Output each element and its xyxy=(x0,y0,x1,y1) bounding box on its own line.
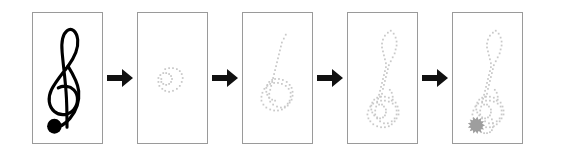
stipple-dot xyxy=(501,114,503,116)
stipple-dot xyxy=(381,82,383,84)
stipple-dot xyxy=(281,42,283,44)
stipple-dot xyxy=(273,82,275,84)
note-head xyxy=(47,119,62,134)
stipple-dot xyxy=(279,50,281,52)
stipple-dot xyxy=(158,81,160,83)
stipple-dot xyxy=(382,51,384,53)
right-arrow-icon xyxy=(212,69,238,87)
stipple-dot xyxy=(388,97,390,99)
stipple-dot xyxy=(168,83,170,85)
stipple-dot xyxy=(370,109,372,111)
stipple-dot xyxy=(390,60,392,62)
stipple-dot xyxy=(383,54,385,56)
stipple-dot xyxy=(282,79,284,81)
stipple-dot xyxy=(491,72,493,74)
stipple-dot xyxy=(383,122,385,124)
stipple-dot xyxy=(168,91,170,93)
stipple-dot xyxy=(164,90,166,92)
stipple-dot xyxy=(268,97,270,99)
stipple-dot xyxy=(160,78,162,80)
stipple-dot xyxy=(388,125,390,127)
stipple-dot xyxy=(486,104,488,106)
stipple-dot xyxy=(391,123,393,125)
stipple-dot xyxy=(489,70,491,72)
stipple-dot xyxy=(376,117,378,119)
stipple-dot xyxy=(496,123,498,125)
stipple-dot xyxy=(382,78,384,80)
stipple-dot xyxy=(384,100,386,102)
stipple-dot xyxy=(271,79,273,81)
stipple-dot xyxy=(500,102,502,104)
stipple-dot xyxy=(385,109,387,111)
stipple-dot xyxy=(396,41,398,43)
stipple-dot xyxy=(493,101,495,103)
stipple-dot xyxy=(367,114,369,116)
stipple-dot xyxy=(473,110,475,112)
stipple-dot xyxy=(380,100,382,102)
figure-root: Progressive stipple reconstruction of a … xyxy=(0,0,575,156)
stipple-stage-3-drawing xyxy=(348,13,417,143)
stipple-dot xyxy=(160,81,162,83)
stipple-dot xyxy=(384,35,386,37)
stipple-dot xyxy=(165,84,167,86)
panel-stipple-stage-3 xyxy=(347,12,418,144)
stipple-dot xyxy=(278,78,280,80)
stipple-dot xyxy=(384,70,386,72)
stipple-dot xyxy=(285,85,287,87)
stipple-dot xyxy=(496,120,498,122)
stipple-dot xyxy=(501,41,503,43)
stipple-stage-1-drawing xyxy=(138,13,207,143)
stipple-dot xyxy=(380,86,382,88)
stipple-dot xyxy=(375,106,377,108)
stipple-dot xyxy=(159,85,161,87)
stipple-dot xyxy=(265,91,267,93)
stipple-dot xyxy=(266,84,268,86)
stipple-dot xyxy=(265,107,267,109)
stipple-dot xyxy=(289,102,291,104)
stipple-dot xyxy=(388,64,390,66)
stipple-dot xyxy=(394,120,396,122)
stipple-dot xyxy=(475,109,477,111)
stipple-dot xyxy=(488,122,490,124)
stipple-dot xyxy=(292,91,294,93)
stipple-dot xyxy=(269,89,271,91)
stipple-dot xyxy=(176,68,178,70)
stipple-dot xyxy=(168,67,170,69)
stipple-dot xyxy=(368,117,370,119)
stipple-dot xyxy=(394,117,396,119)
stipple-dot xyxy=(496,100,498,102)
stipple-dot xyxy=(277,82,279,84)
stipple-dot xyxy=(489,100,491,102)
stipple-dot xyxy=(378,104,380,106)
stipple-dot xyxy=(398,114,400,116)
stipple-dot xyxy=(379,90,381,92)
stipple-stage-2-drawing xyxy=(243,13,312,143)
stipple-dot xyxy=(495,60,497,62)
stipple-dot xyxy=(391,92,393,94)
stipple-sequence-row xyxy=(0,0,575,156)
stipple-dot xyxy=(489,80,491,82)
stipple-dot xyxy=(273,73,275,75)
stipple-dot xyxy=(266,94,268,96)
stipple-dot xyxy=(487,78,489,80)
stipple-dot xyxy=(273,110,275,112)
treble-clef-glyph xyxy=(47,29,79,133)
step-arrow-1 xyxy=(103,12,137,144)
stipple-dot xyxy=(162,72,164,74)
stipple-dot xyxy=(277,110,279,112)
stipple-dot xyxy=(395,106,397,108)
stipple-dot xyxy=(291,99,293,101)
stipple-dot xyxy=(269,101,271,103)
stipple-dot xyxy=(492,122,494,124)
stipple-dot xyxy=(397,106,399,108)
stipple-dot xyxy=(489,115,491,117)
stipple-dot xyxy=(381,104,383,106)
stipple-dot xyxy=(382,88,384,90)
stipple-dot xyxy=(492,32,494,34)
stipple-dot xyxy=(376,101,378,103)
stipple-dot xyxy=(369,120,371,122)
stipple-dot xyxy=(489,126,491,128)
stipple-dot xyxy=(380,126,382,128)
stipple-dot xyxy=(161,88,163,90)
stipple-dot xyxy=(398,110,400,112)
